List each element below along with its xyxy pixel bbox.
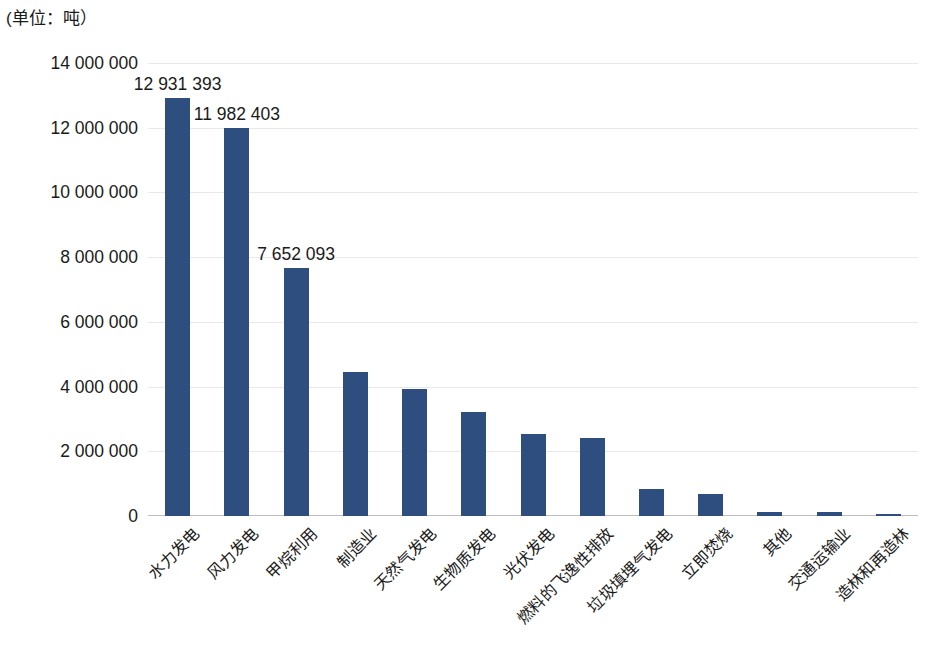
x-axis-category-label: 风力发电 [204,524,263,583]
x-axis-category-label: 甲烷利用 [263,524,322,583]
y-axis-tick: 14 000 000 [50,54,138,72]
gridline [148,63,918,64]
gridline [148,128,918,129]
bar[interactable] [284,268,309,516]
bar-value-label: 7 652 093 [257,244,335,264]
y-axis-tick: 0 [128,507,138,525]
x-axis-category-label: 立即焚烧 [677,524,736,583]
x-axis-category-label: 天然气发电 [370,524,440,594]
bar[interactable] [698,494,723,516]
plot-area: 12 931 39311 982 4037 652 093 [148,63,918,516]
bar-value-label: 11 982 403 [194,104,280,124]
y-axis-tick: 2 000 000 [60,442,138,460]
bar[interactable] [165,98,190,516]
bar-value-label: 12 931 393 [134,74,222,94]
gridline [148,387,918,388]
bar[interactable] [580,438,605,516]
gridline [148,322,918,323]
x-axis-category-label: 水力发电 [144,524,203,583]
x-axis-category-label-text: 风力发电 [204,524,263,583]
x-axis-category-label-text: 天然气发电 [370,524,440,594]
bar[interactable] [639,489,664,516]
bar[interactable] [521,434,546,517]
x-axis-category-label: 制造业 [333,524,380,571]
y-axis-tick: 10 000 000 [50,183,138,201]
x-axis-category-label-text: 其他 [759,524,795,560]
bar[interactable] [343,372,368,516]
bar[interactable] [224,128,249,516]
bar-chart: (单位：吨） 14 000 00012 000 00010 000 0008 0… [0,0,925,657]
x-axis-category-labels: 水力发电风力发电甲烷利用制造业天然气发电生物质发电光伏发电燃料的飞逸性排放垃圾填… [148,516,918,657]
bar[interactable] [461,412,486,516]
x-axis-category-label-text: 甲烷利用 [263,524,322,583]
y-axis-tick: 8 000 000 [60,248,138,266]
y-axis-tick: 6 000 000 [60,313,138,331]
bar[interactable] [402,389,427,516]
x-axis-category-label-text: 水力发电 [144,524,203,583]
x-axis-category-label: 其他 [759,524,795,560]
x-axis-category-label: 光伏发电 [500,524,559,583]
unit-caption: (单位：吨） [6,8,97,30]
x-axis-category-label-text: 制造业 [333,524,380,571]
y-axis-tick: 4 000 000 [60,378,138,396]
x-axis-category-label-text: 立即焚烧 [677,524,736,583]
gridline [148,192,918,193]
x-axis-category-label: 生物质发电 [429,524,499,594]
y-axis-tick: 12 000 000 [50,119,138,137]
x-axis-category-label-text: 生物质发电 [429,524,499,594]
x-axis-category-label-text: 光伏发电 [500,524,559,583]
y-axis-tick-labels: 14 000 00012 000 00010 000 0008 000 0006… [0,63,138,516]
